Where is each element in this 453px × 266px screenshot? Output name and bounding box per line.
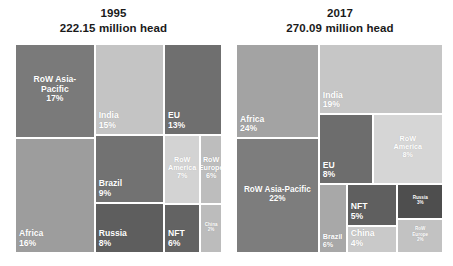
treemap-cell[interactable]: Africa24% [236, 44, 319, 138]
treemap-cell-percent: 4% [348, 239, 366, 252]
treemap-panel-2017: 2017270.09 million headAfrica24%RoW Asia… [227, 0, 453, 266]
treemap-cell-label: RoW America [166, 156, 198, 172]
treemap-cell-percent: 9% [96, 189, 114, 202]
treemap-cell[interactable]: RoW Europe6% [200, 135, 222, 204]
panel-subtitle-label: 222.15 million head [0, 21, 227, 36]
treemap-area: RoW Asia- Pacific17%Africa16%India15%EU1… [15, 44, 222, 253]
treemap-cell-label: RoW Europe [410, 226, 430, 236]
treemap-cell[interactable]: EU13% [164, 44, 222, 135]
treemap-cell-percent: 24% [237, 124, 260, 137]
treemap-cell[interactable]: Brazil6% [319, 184, 347, 253]
treemap-cell-percent: 8% [401, 151, 415, 162]
treemap-cell-percent: 8% [96, 239, 114, 252]
treemap-cell[interactable]: EU8% [319, 114, 373, 184]
treemap-cell-percent: 7% [175, 172, 189, 183]
treemap-chart: 1995222.15 million headRoW Asia- Pacific… [0, 0, 453, 266]
treemap-cell[interactable]: RoW Asia-Pacific22% [236, 138, 319, 253]
treemap-cell-label: RoW Europe [200, 156, 222, 172]
treemap-cell-percent: 2% [206, 227, 217, 235]
treemap-cell[interactable]: India15% [95, 44, 164, 135]
treemap-cell-label: RoW Asia- Pacific [32, 75, 79, 94]
treemap-cell-percent: 3% [415, 200, 426, 208]
treemap-cell-label: RoW Asia-Pacific [242, 185, 313, 194]
treemap-cell[interactable]: NFT5% [347, 184, 398, 226]
treemap-cell[interactable]: NFT6% [164, 204, 200, 253]
treemap-cell[interactable]: Russia8% [95, 203, 164, 253]
treemap-cell-percent: 13% [165, 121, 188, 134]
treemap-cell[interactable]: China2% [200, 204, 222, 253]
treemap-cell-percent: 19% [320, 100, 343, 113]
treemap-cell[interactable]: Africa16% [15, 138, 95, 253]
treemap-cell[interactable]: RoW America7% [164, 135, 200, 204]
treemap-cell-percent: 8% [320, 170, 338, 183]
panel-year-label: 2017 [227, 6, 453, 21]
treemap-cell-label: RoW America [392, 135, 424, 151]
treemap-cell-percent: 6% [165, 239, 183, 252]
treemap-panel-1995: 1995222.15 million headRoW Asia- Pacific… [0, 0, 227, 266]
treemap-area: Africa24%RoW Asia-Pacific22%India19%EU8%… [236, 44, 443, 253]
treemap-cell-percent: 6% [204, 172, 218, 183]
treemap-cell-percent: 17% [44, 94, 65, 107]
treemap-cell[interactable]: RoW Asia- Pacific17% [15, 44, 95, 138]
treemap-cell-percent: 2% [415, 237, 426, 245]
treemap-cell[interactable]: China4% [347, 226, 398, 253]
treemap-cell[interactable]: Russia3% [397, 184, 443, 218]
panel-year-label: 1995 [0, 6, 227, 21]
panel-title-block: 2017270.09 million head [227, 6, 453, 36]
treemap-cell[interactable]: India19% [319, 44, 443, 114]
treemap-cell-percent: 16% [16, 239, 39, 252]
treemap-cell-percent: 5% [348, 212, 366, 225]
treemap-cell[interactable]: RoW Europe2% [397, 219, 443, 253]
treemap-cell-percent: 15% [96, 121, 119, 134]
treemap-cell[interactable]: RoW America8% [373, 114, 443, 184]
treemap-cell-percent: 22% [267, 194, 287, 206]
panel-title-block: 1995222.15 million head [0, 6, 227, 36]
panel-subtitle-label: 270.09 million head [227, 21, 453, 36]
treemap-cell-percent: 6% [320, 241, 336, 252]
treemap-cell[interactable]: Brazil9% [95, 135, 164, 203]
